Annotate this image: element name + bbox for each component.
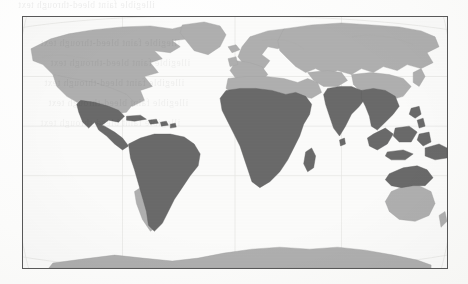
figure-caption-area: illegible faint bleed-through text	[0, 269, 468, 284]
bleed-through-text-top: illegible faint bleed-through text	[18, 0, 155, 10]
land-british-isles	[228, 57, 238, 67]
land-russia-siberia	[278, 23, 439, 75]
scanned-page: illegible faint bleed-through text	[0, 0, 468, 284]
world-map-figure	[22, 16, 448, 269]
world-map-svg	[23, 17, 447, 268]
